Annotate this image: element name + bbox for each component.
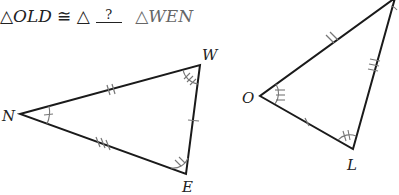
triangle-nwe: N W E [1,46,219,195]
vertex-label-o: O [242,89,254,107]
angle-marks [275,6,397,141]
side-tick-marks [96,84,199,150]
vertex-label-l: L [346,156,357,174]
side-tick-marks [305,32,380,126]
angle-marks [44,70,198,168]
triangle-old: O L [242,0,397,174]
triangle-diagram: N W E O L [0,0,399,195]
vertex-label-n: N [1,107,16,125]
vertex-label-w: W [202,46,219,64]
vertex-label-e: E [181,178,193,195]
